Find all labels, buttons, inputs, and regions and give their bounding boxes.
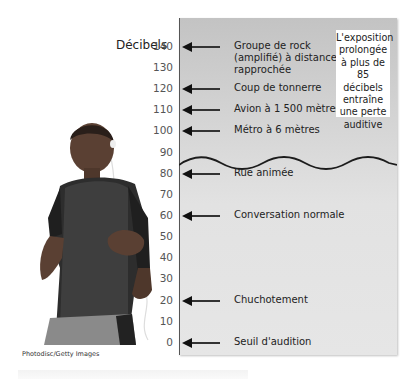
callout-line: prolongée <box>336 44 390 56</box>
label-line: Groupe de rock <box>234 40 337 52</box>
page-shadow <box>18 370 248 379</box>
arrow-60-icon <box>184 215 220 217</box>
arrow-0-icon <box>184 342 220 344</box>
label-plane: Avion à 1 500 mètres <box>234 103 341 115</box>
arrow-140-icon <box>184 46 220 48</box>
label-line: rapprochée <box>234 64 337 76</box>
label-threshold: Seuil d'audition <box>234 336 311 348</box>
callout-line: entraîne <box>336 94 390 106</box>
arrow-100-icon <box>184 130 220 132</box>
label-whisper: Chuchotement <box>234 294 308 306</box>
tick-130: 130 <box>143 61 173 73</box>
arrow-80-icon <box>184 173 220 175</box>
photo-credit: Photodisc/Getty Images <box>22 350 99 358</box>
arrow-110-icon <box>184 109 220 111</box>
tick-120: 120 <box>143 82 173 94</box>
arrow-120-icon <box>184 88 220 90</box>
label-thunder: Coup de tonnerre <box>234 82 322 94</box>
callout-line: L'exposition <box>336 32 390 44</box>
callout-line: auditive <box>336 119 390 131</box>
label-line: (amplifié) à distance <box>234 52 337 64</box>
tick-140: 140 <box>143 40 173 52</box>
threshold-wave-line <box>179 156 397 170</box>
callout-line: une perte <box>336 106 390 118</box>
callout-line: 85 décibels <box>336 69 390 94</box>
callout-line: à plus de <box>336 57 390 69</box>
label-rock-band: Groupe de rock (amplifié) à distance rap… <box>234 40 337 76</box>
person-listening-photo <box>20 108 160 345</box>
label-metro: Métro à 6 mètres <box>234 124 320 136</box>
label-conversation: Conversation normale <box>234 209 344 221</box>
arrow-20-icon <box>184 300 220 302</box>
hearing-loss-callout: L'exposition prolongée à plus de 85 déci… <box>336 30 390 117</box>
